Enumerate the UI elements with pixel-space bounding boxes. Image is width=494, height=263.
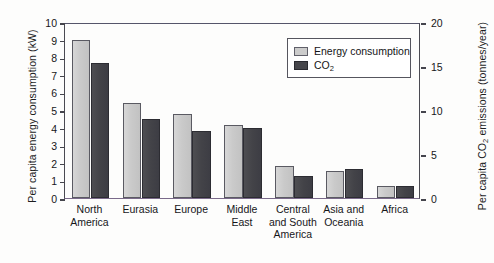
y-tick-right-10 <box>421 111 426 112</box>
y-ticklabel-left-8: 8 <box>37 53 57 64</box>
x-axis-label: Africa <box>359 203 430 216</box>
y-ticklabel-left-4: 4 <box>37 124 57 135</box>
y-tick-right-15 <box>421 67 426 68</box>
y-ticklabel-left-1: 1 <box>37 176 57 187</box>
x-axis-label-line: Africa <box>359 203 430 216</box>
bar-group <box>123 24 161 198</box>
legend-label-co2-pre: CO <box>314 59 330 71</box>
legend-swatch-co2 <box>294 61 308 70</box>
x-axis-category-labels: NorthAmericaEurasiaEuropeMiddleEastCentr… <box>64 203 420 255</box>
y-axis-right-title-post: emissions (tonnes/year) <box>476 22 488 139</box>
bar-co2 <box>91 63 110 198</box>
y-ticklabel-right-10: 10 <box>431 106 453 117</box>
bar-energy-consumption <box>326 171 345 198</box>
y-axis-right-title: Per capita CO2 emissions (tonnes/year) <box>476 18 488 214</box>
y-ticklabel-left-9: 9 <box>37 36 57 47</box>
bar-co2 <box>243 128 262 198</box>
y-ticklabel-right-5: 5 <box>431 150 453 161</box>
bar-co2 <box>396 186 415 198</box>
y-axis-right-title-subscript: 2 <box>481 139 490 143</box>
bar-group <box>173 24 211 198</box>
bar-energy-consumption <box>275 166 294 198</box>
y-ticklabel-left-2: 2 <box>37 159 57 170</box>
y-ticklabel-left-5: 5 <box>37 106 57 117</box>
y-ticklabel-right-20: 20 <box>431 18 453 29</box>
chart-figure: Per capita energy consumption (kW) Per c… <box>0 0 494 263</box>
legend-label-energy-consumption: Energy consumption <box>314 45 410 57</box>
y-ticklabel-right-15: 15 <box>431 62 453 73</box>
bar-energy-consumption <box>377 186 396 198</box>
legend-label-co2: CO2 <box>314 59 334 71</box>
y-tick-right-5 <box>421 155 426 156</box>
legend-swatch-energy-consumption <box>294 47 308 56</box>
x-axis-label-line: America <box>257 228 328 241</box>
y-tick-right-0 <box>421 199 426 200</box>
bar-energy-consumption <box>72 40 91 198</box>
y-ticklabel-right-0: 0 <box>431 194 453 205</box>
bar-energy-consumption <box>224 125 243 198</box>
y-tick-right-20 <box>421 23 426 24</box>
legend-label-co2-subscript: 2 <box>330 64 334 73</box>
bar-co2 <box>192 131 211 198</box>
bar-co2 <box>294 176 313 198</box>
y-ticklabel-left-10: 10 <box>37 18 57 29</box>
bar-energy-consumption <box>173 114 192 198</box>
bar-energy-consumption <box>123 103 142 198</box>
y-ticklabel-left-3: 3 <box>37 141 57 152</box>
legend-item-energy-consumption: Energy consumption <box>294 44 403 58</box>
bar-group <box>224 24 262 198</box>
x-axis-label-line: America <box>54 216 125 229</box>
bar-group <box>72 24 110 198</box>
bar-co2 <box>142 119 161 198</box>
bar-co2 <box>345 169 364 198</box>
x-axis-label-line: Oceania <box>308 216 379 229</box>
y-ticklabel-left-6: 6 <box>37 88 57 99</box>
y-ticklabel-left-7: 7 <box>37 71 57 82</box>
legend-item-co2: CO2 <box>294 58 403 72</box>
y-axis-right-title-pre: Per capita CO <box>476 143 488 210</box>
y-tick-left-0 <box>60 199 65 200</box>
chart-legend: Energy consumption CO2 <box>287 38 411 78</box>
